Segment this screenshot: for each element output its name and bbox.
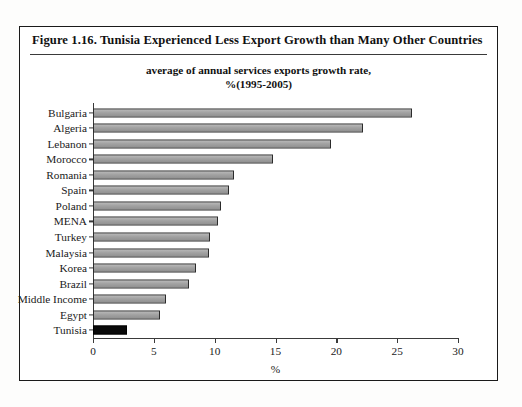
bar <box>93 279 189 288</box>
bar-row: Egypt <box>93 307 458 323</box>
x-axis-tick-label: 20 <box>331 345 342 357</box>
bar <box>93 108 412 117</box>
y-axis-label: Bulgaria <box>48 107 87 119</box>
bar <box>93 233 210 242</box>
y-axis-label: Korea <box>59 262 87 274</box>
y-axis-label: Romania <box>46 169 87 181</box>
y-axis-label: Morocco <box>46 153 87 165</box>
bar-row: Bulgaria <box>93 105 458 121</box>
x-axis-tick <box>93 338 94 343</box>
x-axis-tick <box>458 338 459 343</box>
bar <box>93 124 363 133</box>
bar <box>93 326 127 335</box>
x-axis-tick-label: 15 <box>270 345 281 357</box>
bar <box>93 155 273 164</box>
x-axis-tick <box>215 338 216 343</box>
x-axis-tick <box>336 338 337 343</box>
x-axis-tick-label: 30 <box>452 345 463 357</box>
x-axis-tick-label: 5 <box>151 345 157 357</box>
bar-row: Romania <box>93 167 458 183</box>
bar <box>93 186 229 195</box>
bar-row: Turkey <box>93 229 458 245</box>
y-axis-label: Lebanon <box>47 138 87 150</box>
x-axis-tick-label: 25 <box>392 345 403 357</box>
y-axis-label: Algeria <box>53 122 87 134</box>
x-axis-tick <box>397 338 398 343</box>
bar-row: Morocco <box>93 152 458 168</box>
title-divider <box>30 54 487 55</box>
figure-title: Figure 1.16. Tunisia Experienced Less Ex… <box>32 33 487 48</box>
figure-frame: Figure 1.16. Tunisia Experienced Less Ex… <box>19 26 498 381</box>
x-axis-tick <box>154 338 155 343</box>
chart-subtitle-line1: average of annual services exports growt… <box>146 64 371 76</box>
bar-row: Malaysia <box>93 245 458 261</box>
y-axis-label: Turkey <box>55 231 87 243</box>
bar <box>93 295 166 304</box>
bar <box>93 248 209 257</box>
x-axis-tick-label: 0 <box>90 345 96 357</box>
bar <box>93 139 331 148</box>
bar-series: BulgariaAlgeriaLebanonMoroccoRomaniaSpai… <box>93 105 458 338</box>
bar <box>93 310 160 319</box>
bar <box>93 170 234 179</box>
bar <box>93 264 196 273</box>
bar <box>93 217 218 226</box>
y-axis-label: Middle Income <box>18 293 87 305</box>
plot-area: BulgariaAlgeriaLebanonMoroccoRomaniaSpai… <box>93 105 458 338</box>
y-axis-label: MENA <box>54 215 87 227</box>
x-axis-tick <box>276 338 277 343</box>
bar-row: Algeria <box>93 121 458 137</box>
y-axis-label: Malaysia <box>46 247 87 259</box>
y-axis-label: Brazil <box>59 278 87 290</box>
y-axis-label: Poland <box>56 200 87 212</box>
x-axis-tick-label: 10 <box>209 345 220 357</box>
bar-row: Middle Income <box>93 291 458 307</box>
bar-row: Tunisia <box>93 322 458 338</box>
y-axis-label: Egypt <box>60 309 87 321</box>
y-axis-label: Tunisia <box>54 324 88 336</box>
bar-row: Lebanon <box>93 136 458 152</box>
bar-row: Poland <box>93 198 458 214</box>
bar <box>93 201 221 210</box>
bar-row: Brazil <box>93 276 458 292</box>
bar-row: Korea <box>93 260 458 276</box>
bar-row: Spain <box>93 183 458 199</box>
y-axis-label: Spain <box>61 184 87 196</box>
chart-subtitle: average of annual services exports growt… <box>20 63 497 91</box>
chart-subtitle-line2: %(1995-2005) <box>20 77 497 91</box>
bar-row: MENA <box>93 214 458 230</box>
x-axis-title: % <box>93 363 458 375</box>
